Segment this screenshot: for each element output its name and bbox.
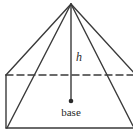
height-label: h xyxy=(76,50,82,64)
edge-apex-back-left xyxy=(6,4,71,75)
base-center-point xyxy=(69,99,74,104)
base-label: base xyxy=(61,106,81,118)
pyramid-diagram: h base xyxy=(0,0,133,134)
